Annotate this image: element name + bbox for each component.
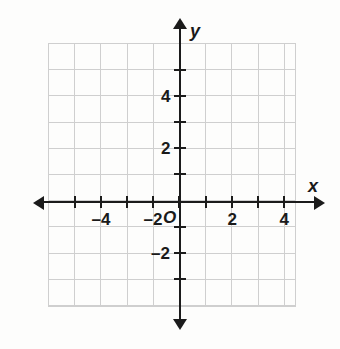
y-axis-tick-label: 4: [161, 88, 170, 105]
y-axis-arrow-down-icon: [173, 319, 187, 330]
y-axis-label: y: [190, 22, 200, 40]
y-axis-tick: [174, 95, 186, 97]
grid-background: [48, 43, 296, 307]
y-axis-tick: [174, 121, 186, 123]
x-axis-tick: [231, 196, 233, 208]
x-axis-tick-label: –2: [144, 211, 163, 228]
x-axis-tick: [205, 196, 207, 208]
origin-label: O: [163, 209, 176, 226]
x-axis-tick-label: 4: [280, 211, 289, 228]
x-axis-arrow-right-icon: [314, 196, 325, 210]
x-axis-tick: [257, 196, 259, 208]
y-axis-tick-label: 2: [161, 140, 170, 157]
grid-bottom-edge: [48, 306, 296, 307]
y-axis-tick: [174, 278, 186, 280]
y-axis-tick-label: –2: [151, 245, 170, 262]
x-axis-arrow-left-icon: [33, 196, 44, 210]
y-axis-tick: [174, 69, 186, 71]
y-axis-tick: [174, 147, 186, 149]
x-axis-tick-label: 2: [228, 211, 237, 228]
y-axis-arrow-up-icon: [173, 18, 187, 29]
y-axis-tick: [174, 252, 186, 254]
x-axis-tick: [283, 196, 285, 208]
x-axis-tick-label: –4: [92, 211, 111, 228]
x-axis-tick: [178, 196, 180, 208]
grid-right-edge: [295, 43, 296, 307]
x-axis-tick: [74, 196, 76, 208]
x-axis-tick: [100, 196, 102, 208]
coordinate-plane-figure: –4–224 42–2 O x y: [0, 0, 340, 349]
x-axis-tick: [126, 196, 128, 208]
x-axis-tick: [152, 196, 154, 208]
x-axis-label: x: [308, 177, 318, 195]
y-axis-tick: [174, 173, 186, 175]
